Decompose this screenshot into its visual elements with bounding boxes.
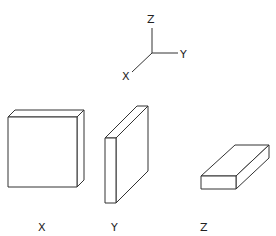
- diagram-canvas: Z Y X X Y Z: [0, 0, 276, 236]
- x-axis-line: [132, 53, 152, 72]
- box-x-front-face: [8, 117, 77, 187]
- box-x-side-face: [77, 110, 84, 187]
- box-x-label: X: [38, 221, 46, 234]
- z-axis-label: Z: [147, 13, 155, 26]
- box-y-label: Y: [110, 221, 118, 234]
- box-z-front-face: [201, 176, 236, 189]
- box-z-label: Z: [200, 221, 208, 234]
- box-z: [201, 145, 269, 189]
- box-y-front-face: [105, 138, 116, 203]
- y-axis-label: Y: [179, 48, 187, 61]
- box-x-top-face: [8, 110, 84, 117]
- box-y: [105, 106, 148, 203]
- box-x: [8, 110, 84, 187]
- axis-triad: Z Y X: [122, 13, 187, 83]
- x-axis-label: X: [122, 70, 130, 83]
